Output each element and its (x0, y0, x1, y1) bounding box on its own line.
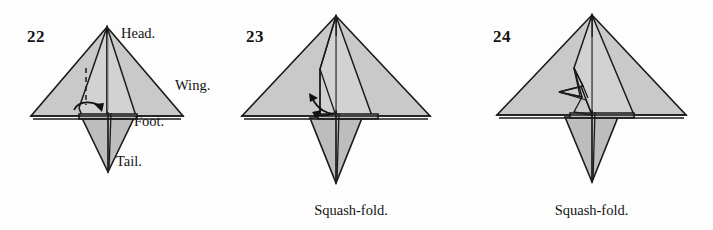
label-head: Head. (121, 26, 155, 41)
origami-figure-sheet: 22 Head. Wing. Foot. Tail. (0, 0, 713, 230)
figure-panel-24: 24 Squash-fold. (470, 0, 713, 230)
step-number-24: 24 (493, 28, 511, 45)
label-wing: Wing. (175, 78, 210, 93)
figure-panel-22: 22 Head. Wing. Foot. Tail. (0, 0, 232, 230)
caption-23: Squash-fold. (232, 203, 470, 218)
origami-drawing-23 (232, 0, 470, 230)
figure-panel-23: 23 Squash-fold. (232, 0, 470, 230)
step-number-23: 23 (246, 28, 264, 45)
caption-24: Squash-fold. (470, 203, 713, 218)
label-foot: Foot. (134, 114, 164, 129)
label-tail: Tail. (116, 154, 142, 169)
step-number-22: 22 (27, 28, 45, 45)
